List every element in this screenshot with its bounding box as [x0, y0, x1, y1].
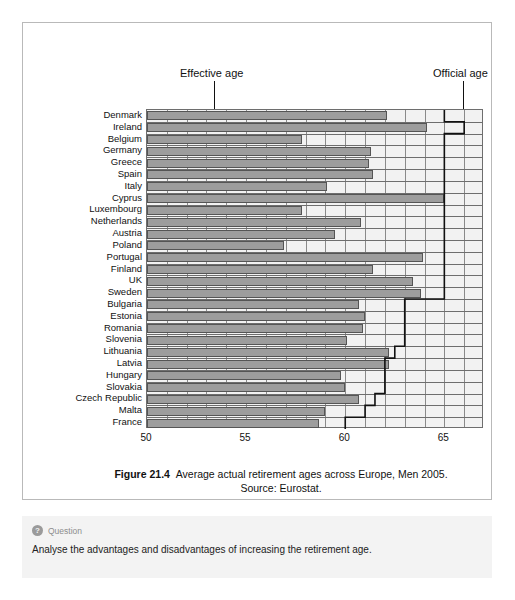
bar-luxembourg: [147, 206, 302, 215]
y-label-czech-republic: Czech Republic: [75, 393, 142, 403]
question-text: Analyse the advantages and disadvantages…: [32, 544, 372, 555]
y-label-lithuania: Lithuania: [103, 346, 142, 356]
bar-malta: [147, 407, 325, 416]
chart-plot-area: [146, 109, 483, 428]
y-label-ireland: Ireland: [113, 122, 142, 132]
y-axis-country-labels: DenmarkIrelandBelgiumGermanyGreeceSpainI…: [53, 109, 142, 428]
bar-denmark: [147, 111, 387, 120]
effective-age-callout-label: Effective age: [180, 67, 243, 79]
bar-hungary: [147, 371, 341, 380]
y-label-malta: Malta: [119, 405, 142, 415]
bar-greece: [147, 159, 369, 168]
question-mark-icon: ?: [32, 525, 43, 536]
bar-lithuania: [147, 348, 389, 357]
y-label-denmark: Denmark: [103, 110, 142, 120]
bar-bulgaria: [147, 300, 359, 309]
question-block: ? Question Analyse the advantages and di…: [22, 516, 492, 578]
bar-belgium: [147, 135, 302, 144]
y-label-latvia: Latvia: [117, 358, 142, 368]
y-label-uk: UK: [129, 275, 142, 285]
bar-latvia: [147, 360, 389, 369]
x-tick-65: 65: [438, 432, 449, 443]
y-label-hungary: Hungary: [106, 370, 142, 380]
x-tick-60: 60: [339, 432, 350, 443]
y-label-estonia: Estonia: [110, 311, 142, 321]
bar-finland: [147, 265, 373, 274]
bar-slovakia: [147, 383, 345, 392]
question-label: Question: [48, 526, 82, 536]
bar-austria: [147, 230, 335, 239]
y-label-france: France: [112, 417, 142, 427]
y-label-cyprus: Cyprus: [112, 193, 142, 203]
bar-germany: [147, 147, 371, 156]
bar-slovenia: [147, 336, 347, 345]
bar-estonia: [147, 312, 365, 321]
x-tick-55: 55: [240, 432, 251, 443]
y-label-luxembourg: Luxembourg: [89, 204, 142, 214]
y-label-poland: Poland: [112, 240, 142, 250]
x-axis-tick-labels: 50556065: [146, 432, 483, 448]
bar-ireland: [147, 123, 427, 132]
bar-sweden: [147, 289, 421, 298]
figure-page: Effective age Official age DenmarkIrelan…: [0, 0, 515, 600]
official-age-leader-line: [463, 81, 464, 109]
bar-france: [147, 419, 319, 428]
y-label-germany: Germany: [103, 145, 142, 155]
y-label-netherlands: Netherlands: [91, 216, 142, 226]
bar-uk: [147, 277, 413, 286]
bar-cyprus: [147, 194, 444, 203]
bar-netherlands: [147, 218, 361, 227]
y-label-spain: Spain: [118, 169, 142, 179]
figure-caption: Figure 21.4 Average actual retirement ag…: [69, 467, 493, 495]
bar-czech-republic: [147, 395, 359, 404]
y-label-romania: Romania: [104, 323, 142, 333]
y-label-slovakia: Slovakia: [106, 382, 142, 392]
bar-portugal: [147, 253, 423, 262]
y-label-austria: Austria: [112, 228, 142, 238]
bar-spain: [147, 170, 373, 179]
question-header: ? Question: [32, 525, 82, 536]
y-label-finland: Finland: [111, 264, 142, 274]
figure-panel: Effective age Official age DenmarkIrelan…: [22, 22, 492, 500]
figure-source: Source: Eurostat.: [69, 481, 493, 495]
official-age-callout-label: Official age: [433, 67, 488, 79]
y-label-italy: Italy: [125, 181, 142, 191]
y-label-bulgaria: Bulgaria: [107, 299, 142, 309]
y-label-greece: Greece: [111, 157, 142, 167]
bar-italy: [147, 182, 327, 191]
effective-age-leader-line: [214, 81, 215, 109]
y-label-belgium: Belgium: [108, 134, 142, 144]
figure-caption-text: Average actual retirement ages across Eu…: [176, 468, 448, 480]
figure-number: Figure 21.4: [114, 468, 169, 480]
bar-poland: [147, 241, 284, 250]
y-label-sweden: Sweden: [108, 287, 142, 297]
bar-romania: [147, 324, 363, 333]
y-label-slovenia: Slovenia: [106, 334, 142, 344]
y-label-portugal: Portugal: [107, 252, 142, 262]
x-tick-50: 50: [140, 432, 151, 443]
